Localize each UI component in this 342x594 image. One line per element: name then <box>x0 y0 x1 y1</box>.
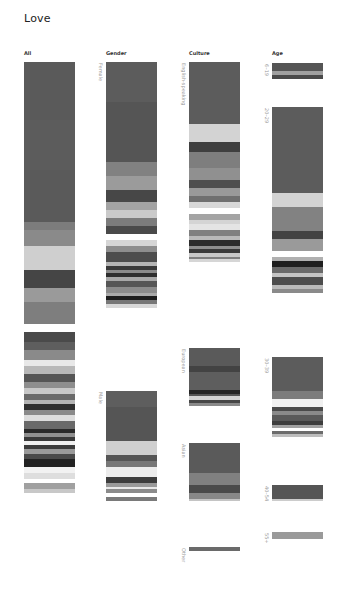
group-label: 40–54 <box>264 486 270 501</box>
bar-segment <box>272 391 323 399</box>
bar-group-culture-english-speaking <box>189 62 240 262</box>
bar-segment <box>272 75 323 79</box>
bar-segment <box>106 441 157 455</box>
group-label: European <box>181 349 187 373</box>
group-label: 55+ <box>264 533 270 544</box>
bar-group-culture-other <box>189 547 240 551</box>
bar-group-all-all <box>24 62 75 493</box>
bar-segment <box>24 332 75 342</box>
bar-segment <box>106 210 157 218</box>
bar-segment <box>189 403 240 406</box>
bar-segment <box>24 246 75 270</box>
bar-segment <box>106 391 157 407</box>
bar-group-age-6-19 <box>272 63 323 79</box>
column-header-gender: Gender <box>106 50 127 56</box>
bar-segment <box>272 532 323 539</box>
bar-segment <box>106 176 157 190</box>
bar-segment <box>272 107 323 193</box>
bar-segment <box>272 434 323 437</box>
bar-segment <box>24 459 75 467</box>
bar-segment <box>272 207 323 231</box>
bar-segment <box>106 304 157 308</box>
bar-segment <box>106 226 157 234</box>
bar-segment <box>24 120 75 170</box>
group-label: 6–19 <box>264 64 270 76</box>
bar-segment <box>189 547 240 551</box>
column-header-culture: Culture <box>189 50 210 56</box>
group-label: Asian <box>181 444 187 458</box>
bar-segment <box>189 372 240 390</box>
bar-segment <box>189 124 240 142</box>
bar-segment <box>272 399 323 407</box>
column-header-age: Age <box>272 50 283 56</box>
bar-segment <box>24 302 75 324</box>
group-label: Female <box>98 63 104 81</box>
bar-segment <box>106 407 157 441</box>
bar-segment <box>272 277 323 285</box>
bar-segment <box>24 366 75 374</box>
bar-group-age-40-54 <box>272 485 323 501</box>
bar-group-culture-european <box>189 348 240 406</box>
bar-segment <box>189 142 240 152</box>
bar-segment <box>272 231 323 239</box>
bar-segment <box>106 202 157 210</box>
bar-segment <box>189 180 240 188</box>
chart-title: Love <box>24 12 51 25</box>
column-header-all: All <box>24 50 31 56</box>
bar-segment <box>106 62 157 102</box>
bar-segment <box>272 289 323 293</box>
bar-segment <box>24 222 75 230</box>
bar-segment <box>189 152 240 168</box>
bar-segment <box>189 485 240 493</box>
bar-group-culture-asian <box>189 443 240 501</box>
bar-group-gender-male <box>106 391 157 501</box>
bar-segment <box>106 252 157 262</box>
bar-segment <box>106 218 157 226</box>
bar-segment <box>106 102 157 162</box>
bar-segment <box>272 193 323 207</box>
group-label: English-speaking <box>181 63 187 105</box>
bar-segment <box>272 239 323 251</box>
bar-segment <box>272 499 323 501</box>
bar-segment <box>272 357 323 391</box>
bar-segment <box>106 467 157 477</box>
bar-group-age-30-39 <box>272 357 323 437</box>
bar-segment <box>272 485 323 499</box>
bar-group-age-20-29 <box>272 107 323 293</box>
bar-segment <box>24 62 75 120</box>
group-label: Male <box>98 392 104 404</box>
bar-segment <box>189 443 240 473</box>
bar-segment <box>24 170 75 222</box>
group-label: Other <box>181 548 187 562</box>
bar-segment <box>24 489 75 493</box>
bar-segment <box>24 350 75 360</box>
bar-group-gender-female <box>106 62 157 308</box>
bar-segment <box>189 499 240 501</box>
bar-segment <box>24 342 75 350</box>
bar-segment <box>189 188 240 196</box>
bar-segment <box>24 421 75 429</box>
group-label: 20–29 <box>264 108 270 123</box>
bar-segment <box>24 324 75 332</box>
bar-segment <box>24 374 75 382</box>
bar-segment <box>189 259 240 262</box>
bar-segment <box>106 190 157 202</box>
bar-segment <box>106 162 157 176</box>
bar-segment <box>272 63 323 71</box>
bar-segment <box>189 348 240 366</box>
bar-segment <box>189 168 240 180</box>
bar-segment <box>106 497 157 501</box>
bar-group-age-55- <box>272 532 323 539</box>
group-label: 30–39 <box>264 358 270 373</box>
bar-segment <box>189 62 240 124</box>
bar-segment <box>24 230 75 246</box>
bar-segment <box>24 288 75 302</box>
bar-segment <box>189 473 240 485</box>
bar-segment <box>24 270 75 288</box>
